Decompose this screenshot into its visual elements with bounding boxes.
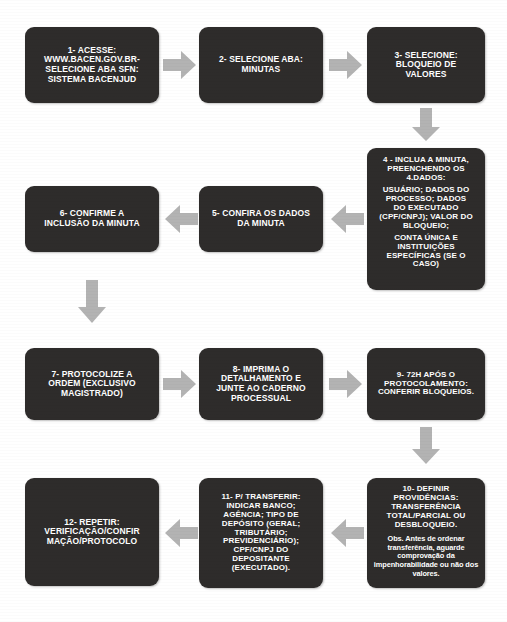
process-box-step-10[interactable]: 10- DEFINIR PROVIDÊNCIAS: TRANSFERÊNCIA …	[367, 478, 485, 588]
process-box-step-2[interactable]: 2- SELECIONE ABA: MINUTAS	[199, 27, 323, 103]
arrow-step-10-to-step-11	[331, 518, 365, 548]
step-2-line-2: MINUTAS	[242, 65, 281, 75]
arrow-step-5-to-step-6	[165, 204, 199, 234]
step-11-line-9: (EXECUTADO).	[232, 564, 290, 573]
step-4-line-3: 4.DADOS:	[406, 174, 445, 183]
flowchart-canvas: 1- ACESSE: WWW.BACEN.GOV.BR- SELECIONE A…	[0, 0, 507, 622]
step-4-line-12: CASO)	[413, 260, 439, 269]
arrow-step-6-to-step-7	[77, 280, 107, 324]
process-box-step-12[interactable]: 12- REPETIR: VERIFICAÇÃO/CONFIR MAÇÃO/PR…	[25, 478, 159, 586]
process-box-step-3[interactable]: 3- SELECIONE: BLOQUEIO DE VALORES	[367, 27, 485, 103]
process-box-step-6[interactable]: 6- CONFIRME A INCLUSÃO DA MINUTA	[25, 186, 159, 252]
step-1-line-4: SISTEMA BACENJUD	[48, 75, 137, 85]
arrow-step-4-to-step-5	[331, 204, 365, 234]
step-10-observation-note: Obs. Antes de ordenar transferência, agu…	[372, 535, 480, 579]
step-10-line-5: DESBLOQUEIO.	[395, 521, 458, 530]
process-box-step-11[interactable]: 11- P/ TRANSFERIR: INDICAR BANCO; AGÊNCI…	[199, 478, 323, 588]
step-4-line-8: BLOQUEIO;	[403, 222, 449, 231]
step-12-line-3: MAÇÃO/PROTOCOLO	[47, 537, 138, 547]
arrow-step-1-to-step-2	[163, 50, 197, 80]
arrow-step-2-to-step-3	[329, 50, 363, 80]
step-5-line-2: DA MINUTA	[237, 219, 285, 229]
process-box-step-4[interactable]: 4 - INCLUA A MINUTA, PREENCHENDO OS 4.DA…	[367, 148, 485, 290]
process-box-step-5[interactable]: 5- CONFIRA OS DADOS DA MINUTA	[199, 186, 323, 252]
arrow-step-11-to-step-12	[165, 518, 199, 548]
process-box-step-9[interactable]: 9- 72H APÓS O PROTOCOLAMENTO: CONFERIR B…	[367, 348, 485, 420]
step-6-line-2: INCLUSÃO DA MINUTA	[44, 219, 139, 229]
step-9-line-3: CONFERIR BLOQUEIOS.	[378, 388, 474, 397]
step-7-line-3: MAGISTRADO)	[61, 389, 123, 399]
process-box-step-7[interactable]: 7- PROTOCOLIZE A ORDEM (EXCLUSIVO MAGIST…	[25, 348, 159, 420]
arrow-step-7-to-step-8	[163, 369, 197, 399]
arrow-step-8-to-step-9	[329, 369, 363, 399]
process-box-step-8[interactable]: 8- IMPRIMA O DETALHAMENTO E JUNTE AO CAD…	[199, 348, 323, 420]
arrow-step-3-to-step-4	[411, 108, 441, 142]
step-8-line-4: PROCESSUAL	[231, 394, 291, 404]
arrow-step-9-to-step-10	[411, 427, 441, 465]
step-3-line-3: VALORES	[405, 70, 446, 80]
process-box-step-1[interactable]: 1- ACESSE: WWW.BACEN.GOV.BR- SELECIONE A…	[25, 27, 159, 103]
